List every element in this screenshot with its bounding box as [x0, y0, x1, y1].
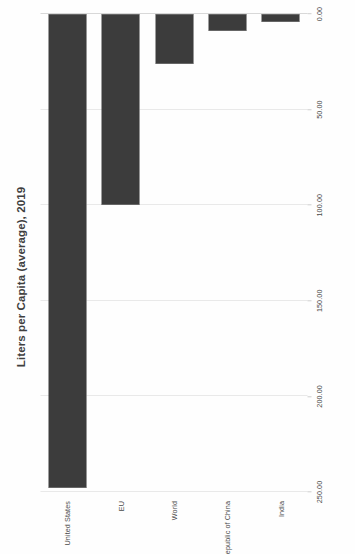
category-axis: United StatesEUWorldPeople's Republic of… [40, 494, 307, 554]
category-label-people-s-republic-of-china: People's Republic of China [200, 494, 253, 554]
value-tick-100.00: 100.00 [307, 194, 323, 217]
bar-united-states[interactable] [48, 14, 86, 488]
tick-label: 250.00 [314, 481, 323, 504]
bar-row [40, 14, 93, 492]
bar-india[interactable] [261, 14, 299, 22]
bar-world[interactable] [155, 14, 193, 64]
bar-row [200, 14, 253, 492]
tick-mark [307, 14, 311, 15]
bar-chart-figure: Liters per Capita (average), 2019 United… [0, 0, 355, 554]
category-label-eu: EU [93, 494, 146, 554]
category-label-world: World [147, 494, 200, 554]
value-tick-150.00: 150.00 [307, 290, 323, 313]
value-tick-50.00: 50.00 [307, 100, 323, 119]
tick-label: 200.00 [314, 385, 323, 408]
bar-row [93, 14, 146, 492]
tick-label: 100.00 [314, 194, 323, 217]
bar-row [254, 14, 307, 492]
value-axis: 250.00200.00150.00100.0050.000.00 [307, 14, 355, 492]
tick-mark [307, 396, 311, 397]
tick-mark [307, 109, 311, 110]
tick-label: 150.00 [314, 290, 323, 313]
tick-label: 50.00 [314, 100, 323, 119]
value-tick-250.00: 250.00 [307, 481, 323, 504]
category-label-united-states: United States [40, 494, 93, 554]
category-label-india: India [254, 494, 307, 554]
plot-area [40, 14, 307, 492]
bar-people-s-republic-of-china[interactable] [208, 14, 246, 31]
rotated-figure-canvas: Liters per Capita (average), 2019 United… [0, 0, 355, 554]
chart-title: Liters per Capita (average), 2019 [14, 0, 26, 554]
bar-row [147, 14, 200, 492]
chart-page: Liters per Capita (average), 2019 United… [0, 0, 355, 554]
tick-mark [307, 300, 311, 301]
tick-mark [307, 492, 311, 493]
value-tick-0.00: 0.00 [307, 7, 323, 21]
tick-label: 0.00 [314, 7, 323, 21]
value-tick-200.00: 200.00 [307, 385, 323, 408]
tick-mark [307, 205, 311, 206]
bar-eu[interactable] [101, 14, 139, 205]
bar-rows [40, 14, 307, 492]
